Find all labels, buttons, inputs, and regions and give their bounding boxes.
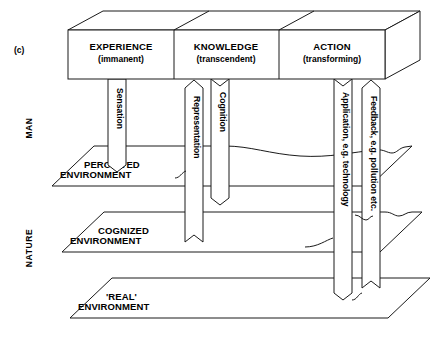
cognized-environment-label-line2: ENVIRONMENT [70, 235, 141, 246]
representation-label: Representation [192, 96, 202, 159]
sensation-label: Sensation [115, 88, 125, 129]
perceived-environment-label-line2: ENVIRONMENT [60, 169, 131, 180]
cognition-label: Cognition [218, 92, 228, 132]
conceptual-model-diagram: 'REAL' ENVIRONMENT COGNIZED ENVIRONMENT … [0, 0, 447, 339]
row-label-nature: NATURE [24, 229, 34, 267]
real-environment-label-line2: ENVIRONMENT [78, 301, 149, 312]
feedback-label: Feedback, e.g. pollution etc. [369, 96, 379, 211]
arrow-cognition: Cognition [211, 79, 229, 205]
application-label: Application, e.g. technology [341, 92, 351, 207]
arrow-application: Application, e.g. technology [334, 79, 352, 300]
arrow-sensation: Sensation [108, 79, 126, 172]
panel-experience-subtitle: (immanent) [98, 54, 144, 64]
top-box-3d: EXPERIENCE (immanent) KNOWLEDGE (transce… [68, 11, 420, 79]
panel-action-title: ACTION [313, 41, 351, 52]
plane-perceived-environment: PERCEIVED ENVIRONMENT [52, 146, 412, 186]
panel-knowledge-subtitle: (transcendent) [196, 54, 255, 64]
panel-action-subtitle: (transforming) [303, 54, 361, 64]
figure-part-label: (c) [14, 45, 25, 55]
panel-knowledge-title: KNOWLEDGE [194, 41, 259, 52]
row-label-man: MAN [24, 117, 34, 138]
arrow-representation: Representation [185, 80, 203, 242]
top-box-top-face [68, 11, 420, 30]
arrow-feedback: Feedback, e.g. pollution etc. [362, 80, 380, 288]
diagram-root: 'REAL' ENVIRONMENT COGNIZED ENVIRONMENT … [0, 0, 447, 339]
panel-experience-title: EXPERIENCE [89, 41, 152, 52]
